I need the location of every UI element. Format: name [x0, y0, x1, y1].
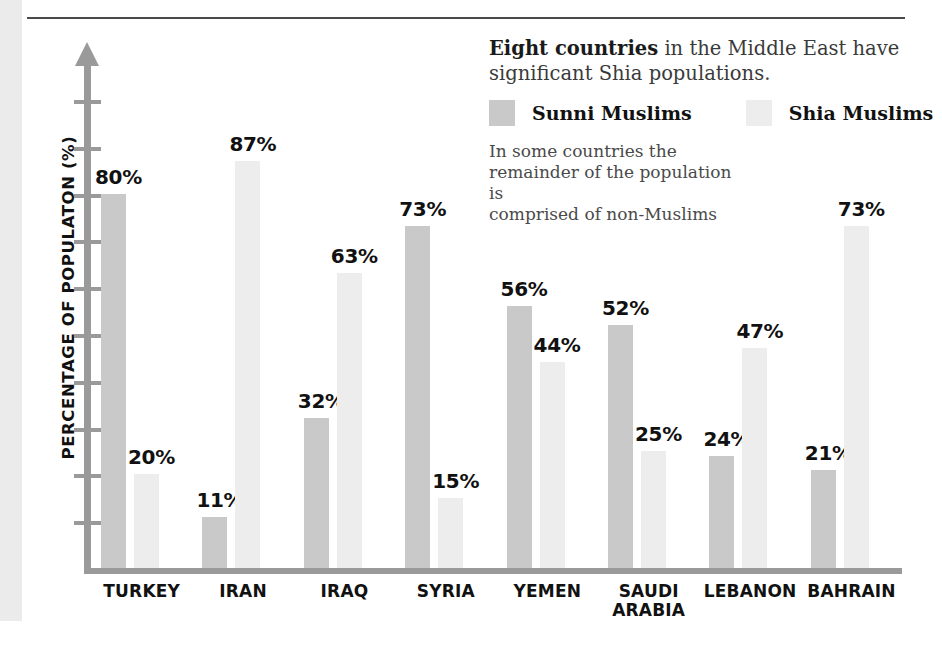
legend-item-shia[interactable]: Shia Muslims	[746, 100, 933, 126]
bar-value-label: 73%	[399, 197, 446, 221]
legend-swatch-shia-icon	[746, 100, 772, 126]
bar-group: 32%63%	[294, 100, 395, 568]
bar-value-label: 15%	[432, 469, 479, 493]
bar-value-label: 80%	[95, 165, 142, 189]
category-label: SYRIA	[395, 582, 496, 601]
y-axis-line	[84, 62, 91, 570]
bar-sunni[interactable]	[405, 226, 430, 568]
bar-sunni[interactable]	[608, 325, 633, 568]
category-label: IRAQ	[294, 582, 395, 601]
category-label: IRAN	[192, 582, 293, 601]
bar-sunni[interactable]	[507, 306, 532, 568]
bar-value-label: 47%	[736, 319, 783, 343]
annotation-subnote: In some countries the remainder of the p…	[489, 141, 739, 225]
bar-value-label: 56%	[501, 277, 548, 301]
x-axis-line	[84, 568, 902, 574]
category-label: SAUDI ARABIA	[598, 582, 699, 620]
bar-shia[interactable]	[235, 161, 260, 568]
bar-sunni[interactable]	[101, 194, 126, 568]
bar-sunni[interactable]	[304, 418, 329, 568]
bar-shia[interactable]	[134, 474, 159, 568]
chart-legend: Sunni Muslims Shia Muslims	[489, 100, 909, 126]
bar-shia[interactable]	[540, 362, 565, 568]
bar-value-label: 52%	[602, 296, 649, 320]
bar-sunni[interactable]	[811, 470, 836, 568]
bar-shia[interactable]	[438, 498, 463, 568]
annotation-headline-bold: Eight countries	[489, 37, 658, 60]
category-label: YEMEN	[497, 582, 598, 601]
y-axis-title: PERCENTAGE OF POPULATON (%)	[59, 160, 78, 460]
bar-group: 80%20%	[91, 100, 192, 568]
bar-shia[interactable]	[641, 451, 666, 568]
category-label: TURKEY	[91, 582, 192, 601]
bar-group: 11%87%	[192, 100, 293, 568]
legend-label-shia: Shia Muslims	[789, 102, 933, 124]
bar-shia[interactable]	[742, 348, 767, 568]
category-label: BAHRAIN	[801, 582, 902, 601]
bar-sunni[interactable]	[709, 456, 734, 568]
annotation-headline: Eight countries in the Middle East have …	[489, 36, 909, 86]
bar-value-label: 87%	[229, 132, 276, 156]
bar-value-label: 63%	[331, 244, 378, 268]
category-label: LEBANON	[699, 582, 800, 601]
legend-swatch-sunni-icon	[489, 100, 515, 126]
bar-value-label: 25%	[635, 422, 682, 446]
legend-item-sunni[interactable]: Sunni Muslims	[489, 100, 692, 126]
bar-value-label: 44%	[534, 333, 581, 357]
annotation-block: Eight countries in the Middle East have …	[489, 36, 909, 225]
bar-value-label: 20%	[128, 445, 175, 469]
bar-sunni[interactable]	[202, 517, 227, 568]
bar-shia[interactable]	[844, 226, 869, 568]
grouped-bar-chart: PERCENTAGE OF POPULATON (%) 80%20%11%87%…	[0, 0, 942, 652]
bar-group: 73%15%	[395, 100, 496, 568]
bar-shia[interactable]	[337, 273, 362, 568]
legend-label-sunni: Sunni Muslims	[532, 102, 692, 124]
